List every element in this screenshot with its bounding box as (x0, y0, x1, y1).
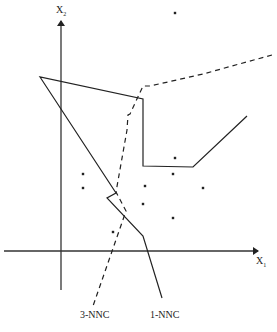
data-point (202, 187, 204, 189)
y-axis-label: X2 (56, 4, 66, 17)
data-point (174, 12, 176, 14)
boundary-1-nnc (40, 77, 247, 298)
diagram-canvas (0, 0, 277, 332)
data-point (82, 173, 84, 175)
label-1-nnc: 1-NNC (150, 309, 179, 320)
data-point (172, 173, 174, 175)
data-point (172, 217, 174, 219)
data-point (174, 157, 176, 159)
label-3-nnc: 3-NNC (80, 309, 109, 320)
data-point (144, 185, 146, 187)
data-point (112, 231, 114, 233)
x-axis-label: X1 (256, 255, 266, 268)
boundary-3-nnc (93, 55, 272, 306)
data-point (142, 203, 144, 205)
data-point (82, 187, 84, 189)
